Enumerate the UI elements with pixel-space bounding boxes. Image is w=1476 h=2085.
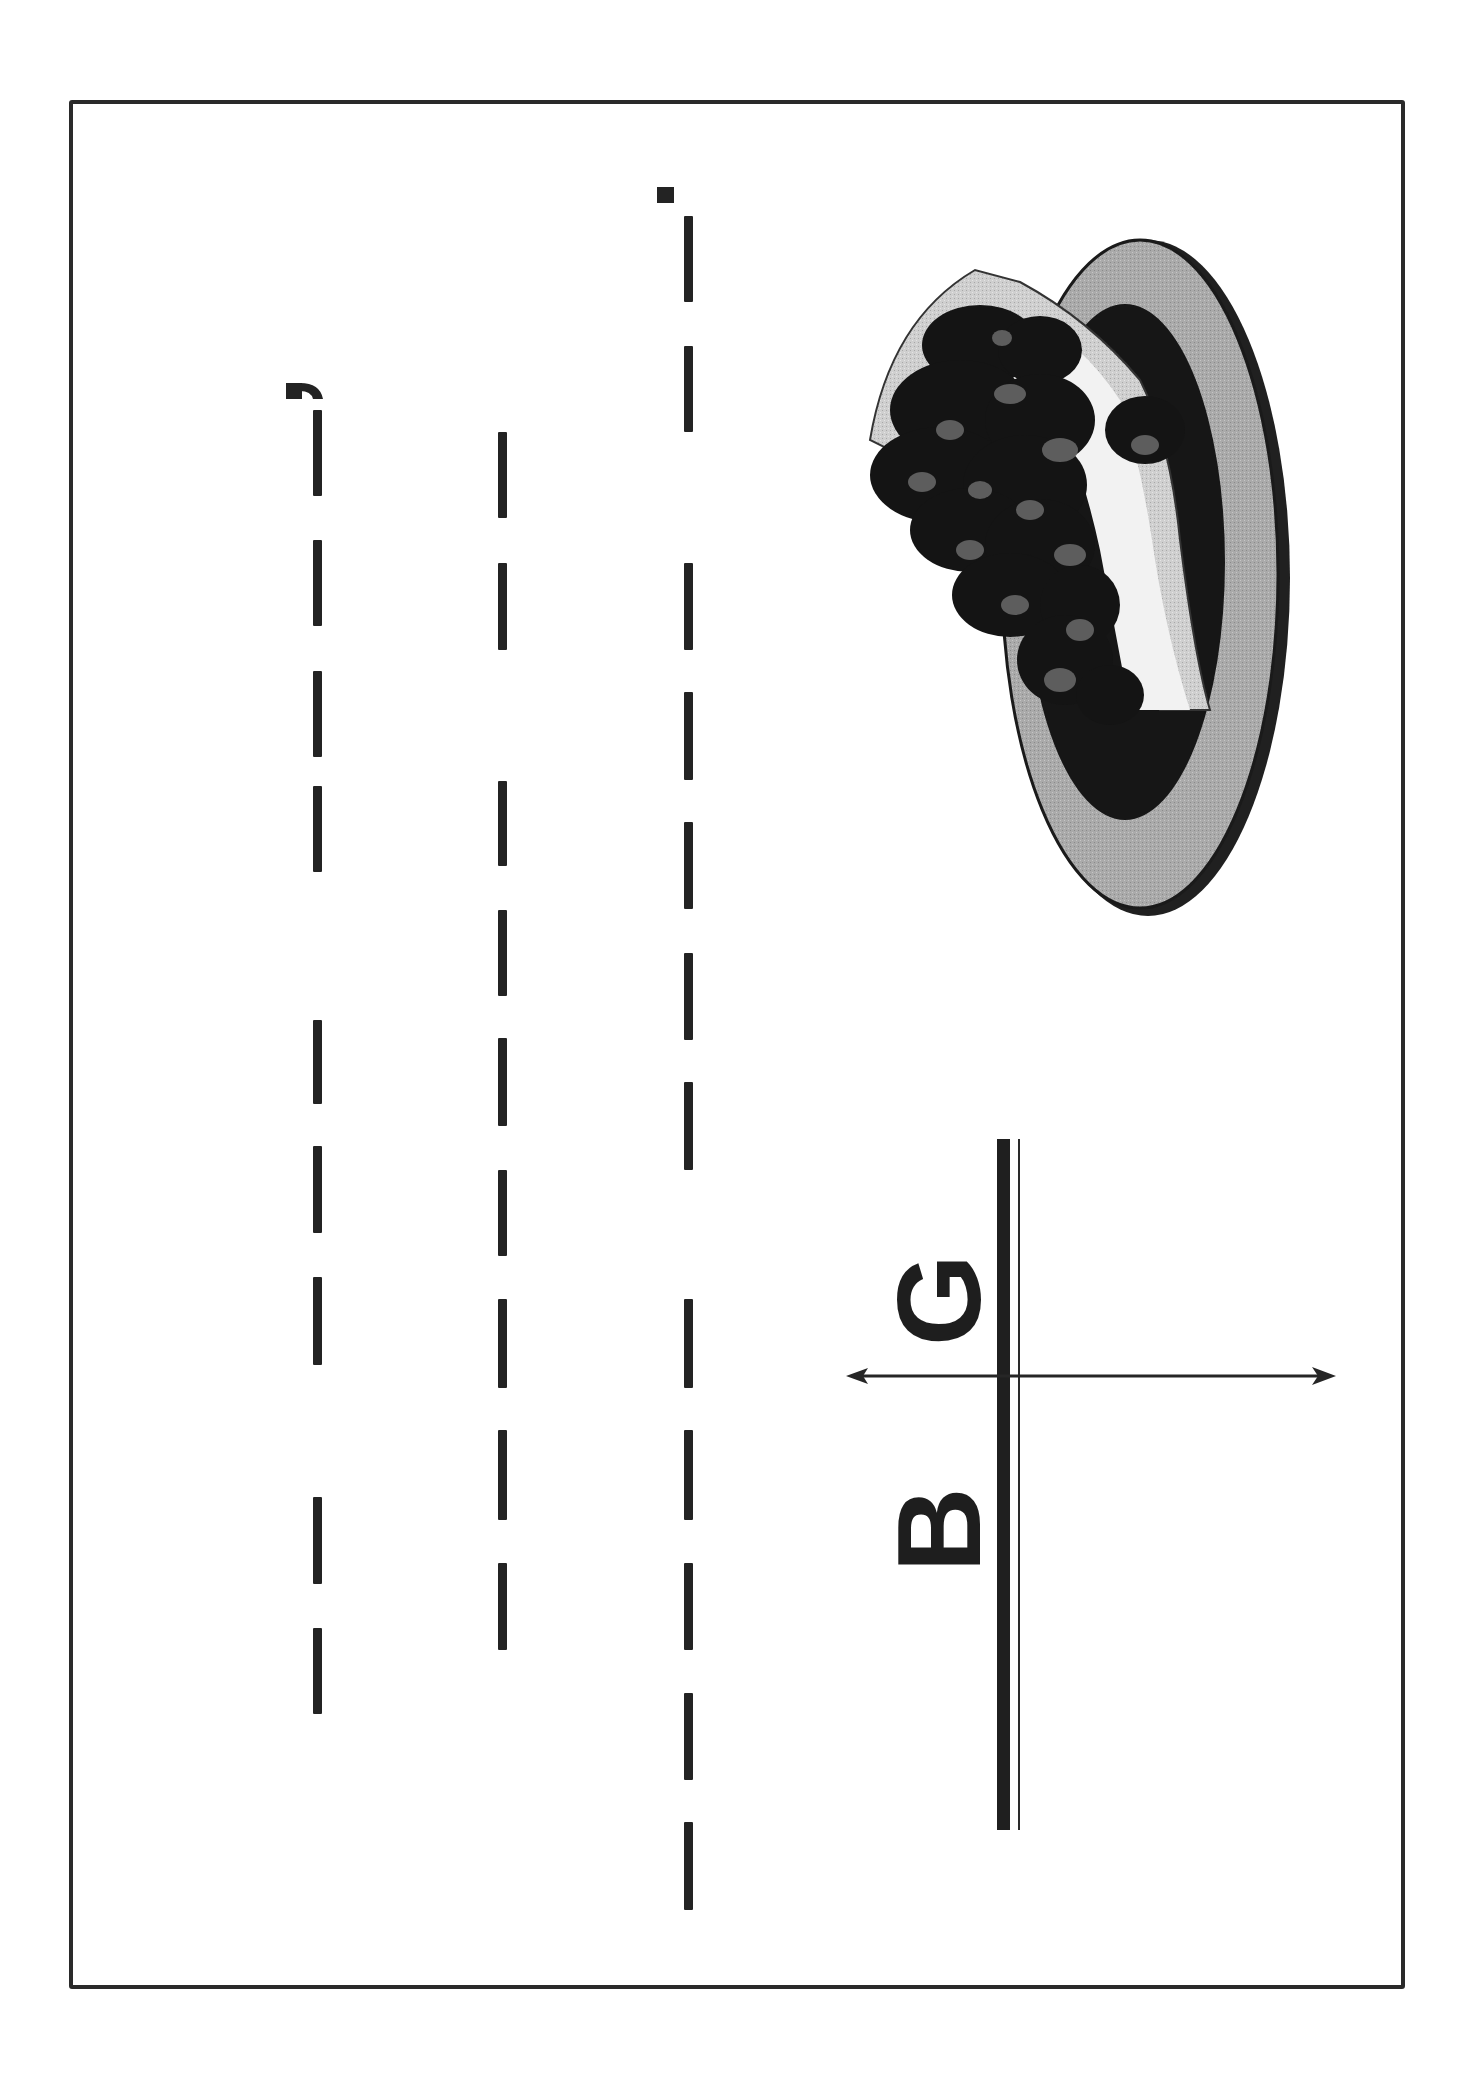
letter-b: B	[880, 1475, 990, 1585]
letter-g: G	[880, 1245, 990, 1355]
grapes-on-plate-illustration	[830, 210, 1310, 930]
